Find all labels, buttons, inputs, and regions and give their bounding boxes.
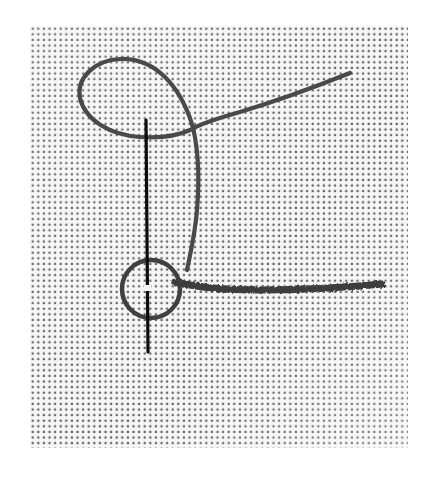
embroidery-photo bbox=[0, 0, 429, 481]
fabric bbox=[30, 26, 408, 448]
